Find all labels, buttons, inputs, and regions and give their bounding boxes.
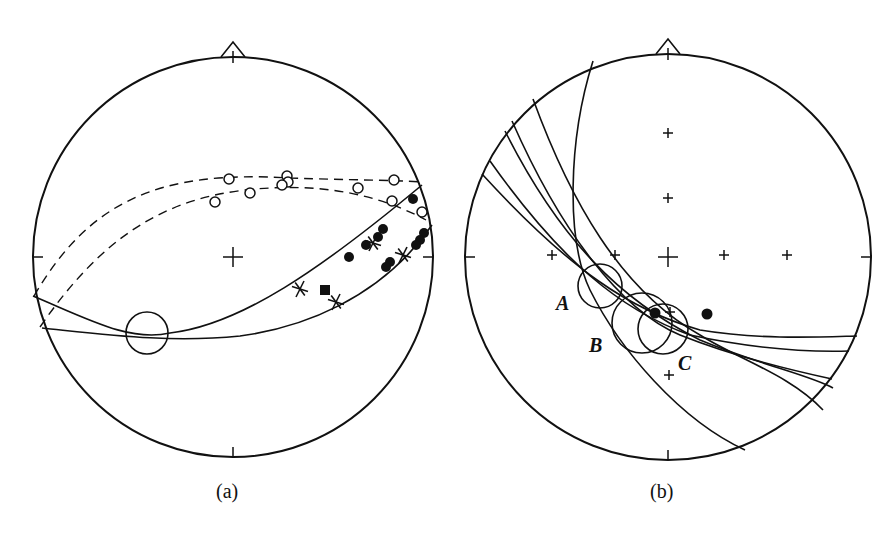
open-circle-marker [389,175,399,185]
filled-circle-marker [408,194,418,204]
stereonet-panel-b: ABC [465,39,871,460]
solid-great-circle [33,185,422,335]
filled-circle-marker [381,262,391,272]
star-icon [295,283,305,296]
filled-circle-marker [702,309,713,320]
point-label-a: A [554,292,569,314]
open-circle-marker [417,207,427,217]
filled-circle-marker [411,240,421,250]
point-label-c: C [678,352,692,374]
caption-b: (b) [650,480,673,503]
stereonet-figure: ABC [0,0,893,536]
open-circle-marker [353,183,363,193]
filled-square-marker [320,285,330,295]
open-circle-marker [224,174,234,184]
caption-a: (a) [216,480,238,503]
filled-circle-marker [344,252,354,262]
open-circle-marker [210,197,220,207]
open-circle-marker [387,196,397,206]
stereonet-panel-a [33,42,433,457]
dashed-great-circle [34,177,422,296]
filled-circle-marker [650,308,661,319]
open-circle-marker [277,180,287,190]
open-circle-marker [245,188,255,198]
point-label-b: B [588,334,602,356]
